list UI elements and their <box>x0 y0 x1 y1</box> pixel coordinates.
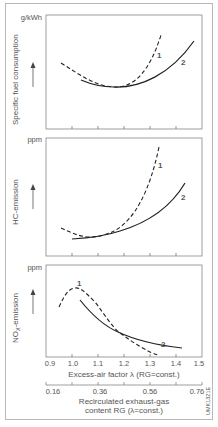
tick-label: 1.0 <box>68 359 78 368</box>
figure-code: UMK1321E <box>205 387 211 415</box>
rg-axis-label-line1: Recirculated exhaust-gas <box>79 397 169 406</box>
curve-1-dashed <box>61 147 159 237</box>
tick-label: 0.16 <box>46 387 61 396</box>
curve-2-solid <box>72 183 185 239</box>
rg-axis-label-line2: content RG (λ=const.) <box>85 406 163 415</box>
arrow-up-icon <box>31 184 36 209</box>
chart-figure: 1 2 g/kWh Specific fuel consumption 1 2 … <box>0 0 218 427</box>
plot-area <box>46 265 202 357</box>
curve-label-2: 2 <box>161 340 166 349</box>
curve-label-1: 1 <box>157 51 162 60</box>
lambda-axis-label: Excess-air factor λ (RG=const.) <box>68 370 180 379</box>
plot-area <box>46 138 202 256</box>
curve-label-1: 1 <box>77 279 82 288</box>
tick-label: 0.76 <box>190 387 205 396</box>
y-axis-label: Specific fuel consumption <box>11 34 20 125</box>
panel-fuel-consumption: 1 2 g/kWh Specific fuel consumption <box>11 13 202 129</box>
x-ticks <box>72 253 176 256</box>
rg-axis: 0.16 0.36 0.56 0.76 Recirculated exhaust… <box>46 382 205 415</box>
panel-hc-emission: 1 2 ppm HC-emission <box>11 135 202 256</box>
tick-label: 0.56 <box>143 387 158 396</box>
arrow-up-icon <box>31 289 36 314</box>
y-axis-label: HC-emission <box>11 179 20 225</box>
curve-2-solid <box>81 41 194 87</box>
tick-label: 1.5 <box>194 359 204 368</box>
tick-label: 1.4 <box>171 359 181 368</box>
curve-1-dashed <box>61 35 161 87</box>
plot-area <box>46 15 202 129</box>
x-ticks <box>72 354 176 357</box>
y-axis-label: NOX-emission <box>11 293 21 343</box>
x-ticks <box>72 126 176 129</box>
arrow-up-icon <box>31 62 36 87</box>
panel-nox-emission: 1 2 ppm NOX-emission 0.9 1.0 1.1 1.2 1.3… <box>11 263 204 379</box>
lambda-tick-labels: 0.9 1.0 1.1 1.2 1.3 1.4 1.5 <box>45 359 204 368</box>
curve-label-2: 2 <box>181 58 186 67</box>
tick-label: 1.2 <box>119 359 129 368</box>
y-unit: ppm <box>27 135 42 144</box>
tick-label: 0.9 <box>45 359 55 368</box>
tick-label: 1.3 <box>145 359 155 368</box>
curve-label-2: 2 <box>181 193 186 202</box>
curve-label-1: 1 <box>158 161 163 170</box>
y-unit: ppm <box>27 263 42 272</box>
y-unit: g/kWh <box>21 13 42 22</box>
curve-1-dashed <box>59 288 158 355</box>
tick-label: 1.1 <box>93 359 103 368</box>
tick-label: 0.36 <box>93 387 108 396</box>
